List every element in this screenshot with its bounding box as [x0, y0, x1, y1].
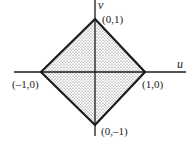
vertex-label-right: (1,0) — [142, 78, 163, 91]
vertex-label-bottom: (0,–1) — [101, 125, 128, 138]
u-axis-label: u — [177, 57, 183, 71]
vertex-label-left: (–1,0) — [12, 78, 39, 91]
vertex-label-top: (0,1) — [102, 13, 123, 26]
v-axis-label: v — [98, 0, 104, 12]
diagram-canvas: v u (0,1) (1,0) (0,–1) (–1,0) — [0, 0, 191, 142]
